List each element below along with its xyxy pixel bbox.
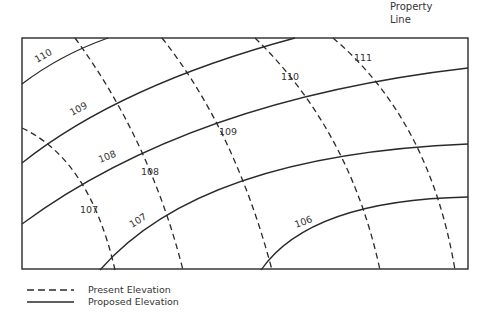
- legend-proposed-label: Proposed Elevation: [88, 296, 179, 307]
- present-contour-label-107: 107: [80, 204, 98, 215]
- proposed-contour-107: [100, 144, 468, 270]
- proposed-contour-label-109: 109: [68, 100, 89, 118]
- present-contour-107: [22, 128, 115, 270]
- contour-diagram: 110109108107106 107108109110111 Present …: [0, 0, 485, 319]
- present-contour-108: [75, 38, 183, 270]
- proposed-contours: 110109108107106: [22, 38, 468, 270]
- present-contour-label-110: 110: [281, 71, 299, 82]
- present-contour-109: [162, 38, 272, 270]
- present-contour-label-108: 108: [141, 166, 159, 177]
- legend: Present Elevation Proposed Elevation: [27, 284, 179, 307]
- proposed-contour-label-108: 108: [97, 148, 118, 165]
- present-contour-111: [333, 38, 455, 270]
- present-contours: 107108109110111: [22, 38, 455, 270]
- property-boundary: [22, 38, 468, 269]
- proposed-contour-106: [261, 197, 468, 270]
- legend-present-label: Present Elevation: [88, 284, 171, 295]
- present-contour-label-111: 111: [354, 52, 372, 63]
- proposed-contour-label-107: 107: [127, 211, 148, 230]
- proposed-contour-108: [22, 68, 468, 224]
- proposed-contour-109: [22, 38, 295, 163]
- present-contour-label-109: 109: [219, 126, 237, 137]
- proposed-contour-label-106: 106: [293, 213, 314, 230]
- proposed-contour-label-110: 110: [33, 46, 54, 65]
